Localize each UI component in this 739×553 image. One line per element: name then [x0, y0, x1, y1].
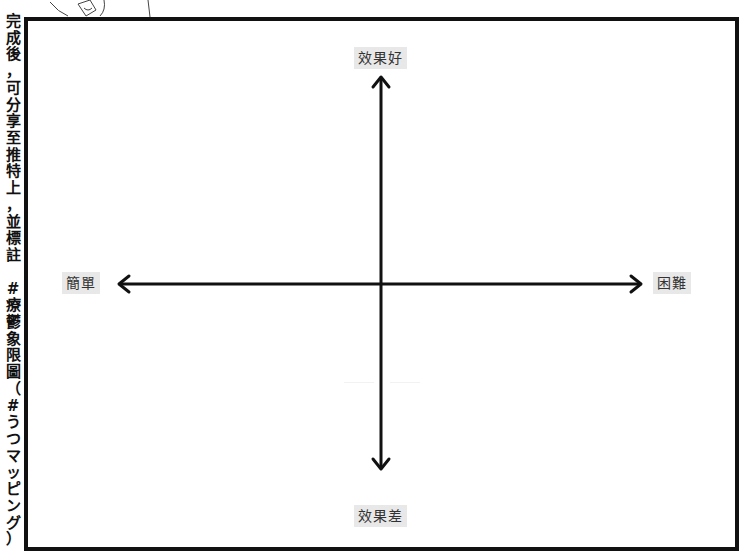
faint-mark: [344, 382, 374, 383]
label-difficult: 困難: [653, 272, 691, 294]
side-caption-char: 註: [6, 248, 21, 265]
label-effect-poor: 效果差: [354, 505, 407, 527]
quadrant-frame: [24, 17, 739, 551]
label-effect-good: 效果好: [354, 47, 407, 69]
side-caption-char: ）: [6, 532, 21, 549]
label-easy: 簡單: [62, 272, 100, 294]
side-caption: 完成後，可分享至推特上，並標註#療鬱象限圖（#うつマッピング）: [1, 14, 25, 549]
faint-mark: [390, 382, 420, 383]
